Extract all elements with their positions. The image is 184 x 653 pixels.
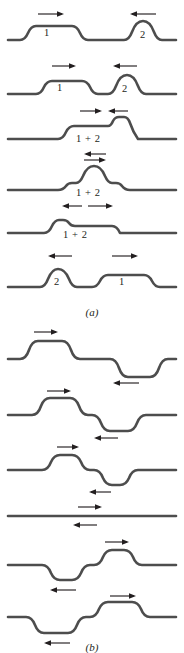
b-row-1-arrows — [0, 325, 184, 387]
b-row-3 — [0, 443, 184, 495]
panel-b: (b) — [0, 325, 184, 653]
arrow-right-upright-pulse — [110, 593, 136, 598]
arrow-right-pulse-1 — [80, 108, 102, 113]
arrow-right-upright-pulse — [47, 388, 71, 393]
pulse-label-sum: 1 + 2 — [76, 134, 101, 145]
panel-b-label: (b) — [0, 641, 184, 653]
a-row-2: 1 2 — [0, 54, 184, 104]
arrow-left-inverted-pulse — [113, 380, 139, 385]
a-row-6-arrows — [0, 250, 184, 298]
a-row-2-arrows — [0, 54, 184, 104]
arrow-right-pulse-1 — [52, 63, 76, 68]
b-row-4-arrows — [0, 495, 184, 539]
b-row-3-arrows — [0, 443, 184, 495]
arrow-left-inverted-pulse — [73, 522, 97, 527]
arrow-left-pulse-2 — [48, 253, 72, 258]
arrow-right-upright-pulse — [34, 329, 58, 334]
b-row-2 — [0, 387, 184, 443]
b-row-2-arrows — [0, 387, 184, 443]
arrow-left-pulse-2 — [130, 11, 156, 16]
b-row-1 — [0, 325, 184, 387]
arrow-right-upright-pulse — [57, 444, 79, 449]
b-row-5-arrows — [0, 539, 184, 595]
pulse-label-1: 1 — [119, 277, 124, 288]
pulse-label-1: 1 — [44, 28, 49, 39]
b-row-5 — [0, 539, 184, 595]
a-row-5: 1 + 2 — [0, 202, 184, 250]
pulse-label-2: 2 — [54, 277, 59, 288]
arrow-right-upright-pulse — [105, 539, 129, 544]
panel-a: 1 2 1 2 — [0, 0, 184, 325]
arrow-left-pulse-2 — [84, 151, 106, 156]
arrow-right-pulse-1 — [38, 11, 64, 16]
a-row-3: 1 + 2 — [0, 104, 184, 152]
arrow-right-pulse-1 — [112, 253, 138, 258]
arrow-left-inverted-pulse — [50, 587, 76, 592]
arrow-left-pulse-2 — [113, 63, 137, 68]
arrow-left-inverted-pulse — [89, 489, 111, 494]
a-row-1-arrows — [0, 0, 184, 54]
pulse-label-2: 2 — [140, 30, 145, 41]
arrow-right-pulse-1 — [84, 157, 106, 162]
arrow-left-pulse-2 — [108, 108, 128, 113]
arrow-left-inverted-pulse — [94, 435, 118, 440]
arrow-left-pulse-2 — [62, 203, 82, 208]
pulse-label-2: 2 — [122, 84, 127, 95]
pulse-label-1: 1 — [57, 83, 62, 94]
a-row-4: 1 + 2 — [0, 152, 184, 202]
a-row-5-arrows — [0, 202, 184, 250]
a-row-3-arrows — [0, 104, 184, 152]
a-row-6: 2 1 — [0, 250, 184, 298]
b-row-4 — [0, 495, 184, 539]
panel-a-label: (a) — [0, 306, 184, 318]
arrow-right-upright-pulse — [78, 504, 102, 509]
pulse-label-sum: 1 + 2 — [76, 188, 101, 199]
a-row-1: 1 2 — [0, 0, 184, 54]
arrow-right-pulse-1 — [88, 203, 113, 208]
pulse-label-sum: 1 + 2 — [63, 230, 88, 241]
wave-pulse-superposition-figure: 1 2 1 2 — [0, 0, 184, 653]
